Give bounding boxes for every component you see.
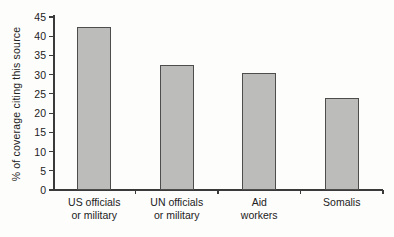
bar-1 (77, 27, 111, 190)
y-tick-label: 45 (26, 12, 46, 22)
x-category-label: Somalis (297, 196, 387, 209)
y-tick-mark (49, 189, 53, 190)
y-tick-mark (49, 16, 53, 17)
y-axis-line (53, 15, 55, 190)
y-tick-mark (49, 93, 53, 94)
y-tick-label: 25 (26, 89, 46, 99)
y-tick-label: 40 (26, 31, 46, 41)
y-axis-title: % of coverage citing this source (10, 18, 24, 190)
y-tick-mark (49, 151, 53, 152)
x-tick-mark (217, 190, 218, 194)
y-tick-label: 35 (26, 50, 46, 60)
x-tick-mark (300, 190, 301, 194)
y-tick-mark (49, 170, 53, 171)
x-tick-mark (135, 190, 136, 194)
y-tick-label: 10 (26, 147, 46, 157)
bar-2 (160, 65, 194, 190)
x-tick-mark (382, 190, 383, 194)
x-category-label: UN officials or military (132, 196, 222, 221)
y-tick-mark (49, 36, 53, 37)
y-tick-mark (49, 132, 53, 133)
y-tick-mark (49, 74, 53, 75)
bar-3 (242, 73, 276, 190)
y-tick-mark (49, 55, 53, 56)
y-tick-mark (49, 113, 53, 114)
y-tick-label: 0 (26, 185, 46, 195)
y-tick-label: 5 (26, 166, 46, 176)
x-category-label: US officials or military (49, 196, 139, 221)
y-tick-label: 30 (26, 70, 46, 80)
bar-chart-figure: % of coverage citing this source 0510152… (0, 0, 394, 237)
y-tick-label: 20 (26, 108, 46, 118)
y-tick-label: 15 (26, 127, 46, 137)
bar-4 (325, 98, 359, 190)
x-category-label: Aid workers (214, 196, 304, 221)
